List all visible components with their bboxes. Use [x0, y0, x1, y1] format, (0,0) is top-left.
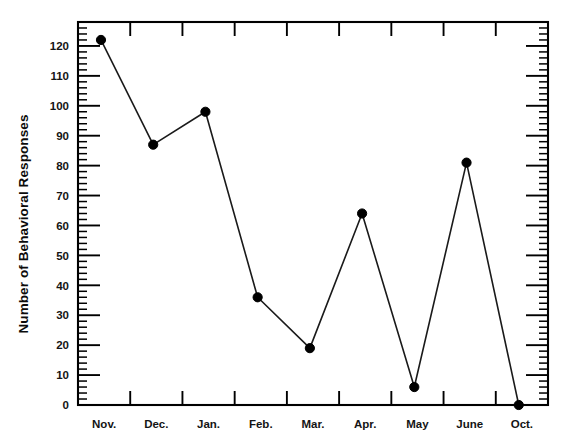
data-point-marker: Dec.: 87	[149, 140, 158, 149]
data-point-marker: Mar.: 19	[305, 344, 314, 353]
x-axis-category-label: Apr.	[354, 418, 376, 430]
x-axis-category-label: Jan.	[197, 418, 220, 430]
data-point-marker: Nov.: 122	[96, 35, 105, 44]
y-axis-tick-label: 10	[56, 369, 69, 381]
y-axis-title-container: Number of Behavioral Responses	[6, 0, 40, 448]
y-axis-tick-label: 100	[50, 100, 69, 112]
x-axis-category-label: Mar.	[301, 418, 324, 430]
x-axis-category-label: Nov.	[92, 418, 116, 430]
x-axis-category-label: Feb.	[249, 418, 273, 430]
data-point-marker: Apr.: 64	[357, 209, 366, 218]
x-axis-top-ticks	[130, 22, 496, 36]
y-axis-tick-label: 110	[50, 70, 69, 82]
y-axis-tick-labels: 0102030405060708090100110120	[50, 40, 69, 411]
y-axis-tick-label: 50	[56, 250, 69, 262]
y-axis-tick-label: 30	[56, 309, 69, 321]
y-axis-tick-label: 0	[63, 399, 69, 411]
data-point-marker: May: 6	[410, 382, 419, 391]
y-axis-tick-label: 90	[56, 130, 69, 142]
chart-figure: Number of Behavioral Responses 010203040…	[0, 0, 586, 448]
y-axis-tick-label: 40	[56, 280, 69, 292]
line-chart-svg: 0102030405060708090100110120 Nov.: 122De…	[0, 0, 586, 448]
y-axis-tick-label: 120	[50, 40, 69, 52]
y-axis-tick-label: 70	[56, 190, 69, 202]
y-axis-minor-ticks	[78, 22, 87, 399]
data-series-markers: Nov.: 122Dec.: 87Jan.: 98Feb.: 36Mar.: 1…	[96, 35, 523, 409]
x-axis-category-label: June	[456, 418, 483, 430]
data-point-marker: Oct.: 0	[514, 400, 523, 409]
x-axis-category-label: Dec.	[144, 418, 168, 430]
y-axis-right-minor-ticks	[539, 22, 548, 399]
y-axis-title: Number of Behavioral Responses	[16, 114, 31, 333]
data-point-marker: Feb.: 36	[253, 293, 262, 302]
y-axis-tick-label: 60	[56, 220, 69, 232]
x-axis-bottom-ticks	[130, 391, 496, 405]
x-axis-category-label: Oct.	[511, 418, 533, 430]
x-axis-category-labels: Nov.Dec.Jan.Feb.Mar.Apr.MayJuneOct.	[92, 418, 533, 430]
y-axis-tick-label: 80	[56, 160, 69, 172]
data-point-marker: June: 81	[462, 158, 471, 167]
x-axis-category-label: May	[406, 418, 429, 430]
y-axis-tick-label: 20	[56, 339, 69, 351]
data-point-marker: Jan.: 98	[201, 107, 210, 116]
